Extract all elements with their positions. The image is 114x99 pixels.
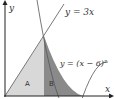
x-axis-label: x (105, 84, 110, 94)
region-a-label: A (25, 80, 30, 88)
diagram: y x y = 3x y = (x − 6)² A B (0, 0, 114, 98)
region-b-label: B (49, 80, 54, 88)
y-axis-label: y (8, 3, 15, 13)
y-axis-arrow-icon (3, 0, 8, 5)
line-label: y = 3x (64, 7, 94, 17)
parabola-label: y = (x − 6)² (59, 59, 107, 68)
x-axis-arrow-icon (109, 94, 114, 99)
